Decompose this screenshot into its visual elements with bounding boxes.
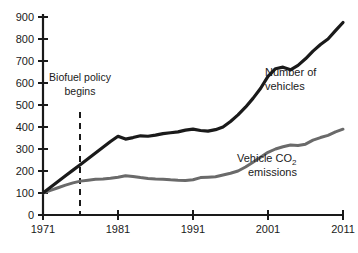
x-tick-label-2011: 2011 (331, 223, 355, 235)
chart-container: 0 100 200 300 400 500 600 700 800 900 19… (0, 0, 358, 253)
y-tick-label-0: 0 (28, 209, 34, 221)
biofuel-policy-label-line1: Biofuel policy (49, 71, 112, 83)
biofuel-policy-label-line2: begins (65, 85, 96, 97)
y-tick-label-500: 500 (16, 99, 34, 111)
series-label-vehicles-line1: Number of (265, 66, 317, 78)
series-label-vehicles-line2: vehicles (265, 80, 305, 92)
series-line-vehicle-co2-emissions (43, 23, 343, 194)
series-line-number-of-vehicles (43, 129, 343, 193)
y-tick-label-100: 100 (16, 187, 34, 199)
x-tick-label-1981: 1981 (106, 223, 130, 235)
y-tick-label-800: 800 (16, 33, 34, 45)
y-tick-label-200: 200 (16, 165, 34, 177)
x-tick-label-2001: 2001 (256, 223, 280, 235)
series-label-emissions-line2: emissions (248, 166, 297, 178)
y-tick-label-700: 700 (16, 55, 34, 67)
y-tick-label-900: 900 (16, 11, 34, 23)
y-tick-label-400: 400 (16, 121, 34, 133)
line-chart: 0 100 200 300 400 500 600 700 800 900 19… (0, 0, 358, 253)
y-axis-tick-labels: 0 100 200 300 400 500 600 700 800 900 (16, 11, 34, 221)
x-tick-label-1971: 1971 (31, 223, 55, 235)
x-axis-tick-labels: 1971 1981 1991 2001 2011 (31, 223, 355, 235)
x-tick-label-1991: 1991 (181, 223, 205, 235)
y-tick-label-600: 600 (16, 77, 34, 89)
series-label-emissions-text: Vehicle CO (237, 152, 292, 164)
series-label-emissions-line1: Vehicle CO2 (237, 152, 297, 167)
y-tick-label-300: 300 (16, 143, 34, 155)
